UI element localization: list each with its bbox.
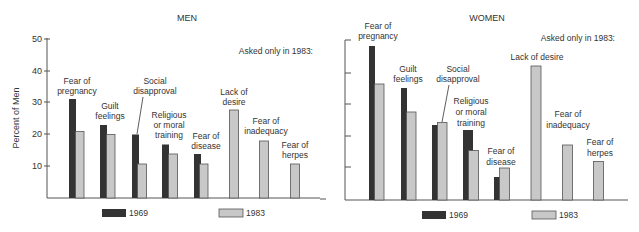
men-label-religious-1: Religious	[152, 110, 187, 120]
women-label-guilt-2: feelings	[393, 74, 422, 84]
men-bar-guilt-1969	[100, 125, 107, 198]
women-label-herpes-2: herpes	[587, 148, 613, 158]
women-label-religious-2: or moral	[455, 107, 486, 117]
women-y-ticks	[345, 40, 351, 167]
women-label-social-1: Social	[446, 64, 469, 74]
women-label-pregnancy-1: Fear of	[365, 21, 393, 31]
men-label-pregnancy-2: pregnancy	[57, 86, 97, 96]
men-label-guilt-2: feelings	[95, 111, 124, 121]
men-legend: 1969 1983	[102, 208, 265, 218]
women-label-disease-2: disease	[486, 157, 516, 167]
men-label-social-1: Social	[143, 76, 166, 86]
men-bar-pregnancy-1969	[69, 99, 76, 198]
men-label-herpes-2: herpes	[282, 150, 308, 160]
women-bar-disease-1983	[500, 168, 510, 200]
women-label-desire-1: Lack of desire	[511, 52, 564, 62]
men-label-guilt-1: Guilt	[101, 101, 119, 111]
men-social-leader-line	[137, 97, 143, 134]
men-bar-desire-1983	[230, 110, 239, 198]
women-legend-swatch-1969	[422, 211, 446, 219]
men-bar-religious-1969	[162, 145, 169, 199]
women-bar-inadequacy-1983	[563, 145, 573, 200]
women-label-pregnancy-2: pregnancy	[358, 31, 398, 41]
men-chart: MEN Percent of Men 50 40 30 20 10 Asked …	[11, 13, 320, 218]
men-legend-swatch-1983	[219, 209, 243, 217]
men-label-desire-2: desire	[222, 97, 245, 107]
women-label-inadequacy-1: Fear of	[555, 109, 583, 119]
men-label-disease-1: Fear of	[193, 131, 221, 141]
men-label-inadequacy-2: inadequacy	[244, 126, 288, 136]
women-legend-swatch-1983	[532, 211, 556, 219]
women-legend: 1969 1983	[422, 210, 578, 220]
men-bar-disease-1983	[200, 164, 209, 198]
men-bar-inadequacy-1983	[260, 141, 269, 198]
men-label-social-2: disapproval	[133, 86, 177, 96]
women-label-disease-1: Fear of	[488, 146, 516, 156]
women-label-inadequacy-2: inadequacy	[546, 120, 590, 130]
chart-canvas: MEN Percent of Men 50 40 30 20 10 Asked …	[0, 0, 639, 232]
men-tick-30: 30	[32, 97, 42, 107]
women-chart: WOMEN Asked only in 1983:	[320, 13, 628, 220]
men-bar-guilt-1983	[107, 135, 116, 199]
women-label-social-2: disapproval	[436, 74, 480, 84]
men-legend-swatch-1969	[102, 209, 126, 217]
men-label-disease-2: disease	[191, 141, 221, 151]
men-label-desire-1: Lack of	[220, 87, 248, 97]
women-label-guilt-1: Guilt	[399, 64, 417, 74]
women-annotation: Asked only in 1983:	[541, 33, 615, 43]
women-bar-desire-1983	[531, 66, 541, 200]
women-label-religious-1: Religious	[454, 96, 489, 106]
women-label-herpes-1: Fear of	[587, 137, 615, 147]
men-tick-40: 40	[32, 66, 42, 76]
men-tick-20: 20	[32, 129, 42, 139]
men-legend-label-1969: 1969	[129, 208, 148, 218]
men-label-religious-3: training	[155, 130, 183, 140]
women-social-leader-line	[442, 85, 449, 122]
men-y-axis-label: Percent of Men	[11, 87, 21, 148]
men-tick-10: 10	[32, 161, 42, 171]
women-legend-label-1983: 1983	[559, 210, 578, 220]
men-label-pregnancy-1: Fear of	[64, 76, 92, 86]
women-bar-guilt-1983	[407, 112, 417, 200]
men-label-religious-2: or moral	[153, 120, 184, 130]
men-legend-label-1983: 1983	[246, 208, 265, 218]
men-category-labels: Fear of pregnancy Guilt feelings Social …	[57, 76, 309, 160]
men-label-herpes-1: Fear of	[282, 140, 310, 150]
women-title: WOMEN	[469, 13, 505, 23]
women-bar-pregnancy-1983	[375, 84, 385, 200]
men-bar-pregnancy-1983	[76, 132, 85, 199]
men-tick-50: 50	[32, 34, 42, 44]
women-label-religious-3: training	[457, 118, 485, 128]
women-legend-label-1969: 1969	[449, 210, 468, 220]
men-title: MEN	[177, 13, 197, 23]
men-label-inadequacy-1: Fear of	[253, 116, 281, 126]
women-bar-social-1983	[438, 123, 448, 201]
women-bar-herpes-1983	[594, 162, 604, 201]
men-bar-herpes-1983	[291, 164, 300, 198]
men-annotation: Asked only in 1983:	[239, 46, 313, 56]
women-bar-religious-1983	[469, 151, 479, 201]
men-bar-social-1983	[138, 164, 147, 198]
men-bar-religious-1983	[169, 154, 178, 198]
